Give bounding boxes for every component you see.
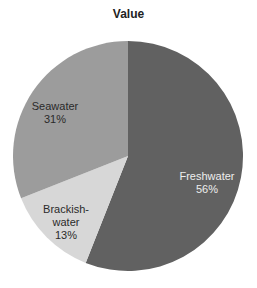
label-seawater: Seawater 31% <box>25 100 85 126</box>
label-brackishwater-pct: 13% <box>36 229 96 242</box>
pie-chart <box>0 0 257 288</box>
label-brackishwater: Brackish- water 13% <box>36 203 96 242</box>
label-freshwater-name: Freshwater <box>172 170 242 183</box>
label-freshwater: Freshwater 56% <box>172 170 242 196</box>
label-brackishwater-name-1: Brackish- <box>36 203 96 216</box>
label-freshwater-pct: 56% <box>172 183 242 196</box>
label-seawater-pct: 31% <box>25 113 85 126</box>
label-seawater-name: Seawater <box>25 100 85 113</box>
label-brackishwater-name-2: water <box>36 216 96 229</box>
